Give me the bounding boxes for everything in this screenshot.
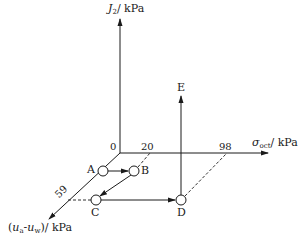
point-b-marker — [129, 166, 139, 176]
j2-unit: / kPa — [117, 2, 144, 15]
point-c-marker — [91, 195, 101, 205]
stress-path-diagram — [0, 0, 302, 240]
suction-unit: / kPa — [45, 221, 72, 234]
point-c-label: C — [91, 207, 99, 219]
tick-20: 20 — [141, 141, 154, 153]
tick-origin: 0 — [110, 141, 116, 153]
projection-d-to-98 — [185, 153, 227, 196]
suction-axis-label: (ua-uw)/ kPa — [8, 222, 72, 237]
tick-98: 98 — [219, 141, 232, 153]
point-a-marker — [98, 166, 108, 176]
j2-axis-label: J2/ kPa — [108, 3, 144, 18]
point-d-marker — [176, 195, 186, 205]
sigma-unit: / kPa — [270, 136, 297, 149]
point-d-label: D — [177, 207, 186, 219]
sigma-oct-axis-label: σoct/ kPa — [252, 137, 298, 152]
sigma-subscript: oct — [260, 142, 271, 150]
point-e-label: E — [177, 82, 185, 94]
path-b-to-c — [100, 175, 131, 196]
point-b-label: B — [141, 165, 149, 177]
sigma-symbol: σ — [252, 136, 260, 149]
point-a-label: A — [87, 164, 95, 176]
